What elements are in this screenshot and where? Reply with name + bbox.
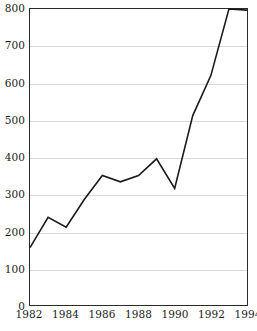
x-tick-label-1984: 1984 bbox=[52, 309, 79, 320]
x-tick-label-1992: 1992 bbox=[198, 309, 225, 320]
y-tick-label-100: 100 bbox=[5, 264, 25, 275]
y-tick-label-300: 300 bbox=[5, 189, 25, 200]
data-series-line bbox=[30, 9, 247, 305]
series-1-polyline bbox=[30, 9, 247, 248]
x-tick-label-1986: 1986 bbox=[88, 309, 115, 320]
x-axis-tick-labels: 1982198419861988199019921994 bbox=[29, 309, 248, 329]
plot-area bbox=[29, 8, 248, 306]
y-tick-label-400: 400 bbox=[5, 152, 25, 163]
y-tick-label-200: 200 bbox=[5, 226, 25, 237]
y-axis-tick-labels: 0100200300400500600700800 bbox=[0, 8, 25, 306]
x-tick-label-1988: 1988 bbox=[125, 309, 152, 320]
y-tick-label-600: 600 bbox=[5, 77, 25, 88]
x-tick-label-1982: 1982 bbox=[15, 309, 42, 320]
x-tick-label-1994: 1994 bbox=[234, 309, 257, 320]
line-chart-figure: 0100200300400500600700800 19821984198619… bbox=[0, 0, 257, 331]
y-tick-label-700: 700 bbox=[5, 40, 25, 51]
x-tick-label-1990: 1990 bbox=[161, 309, 188, 320]
y-tick-label-800: 800 bbox=[5, 3, 25, 14]
y-tick-label-500: 500 bbox=[5, 115, 25, 126]
